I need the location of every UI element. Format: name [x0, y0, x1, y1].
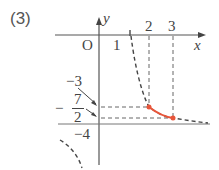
highlight-segment: [149, 107, 173, 118]
curve-left-branch: [60, 140, 82, 168]
y-tick-neg7-2-denominator: 2: [74, 110, 82, 125]
x-tick-3: 3: [168, 19, 176, 34]
y-axis-arrow-icon: [96, 17, 102, 25]
origin-label: O: [82, 38, 93, 53]
y-tick-neg7-2-sign: −: [55, 101, 63, 116]
point-3-neg7-2: [171, 116, 176, 121]
x-axis-label: x: [194, 38, 201, 53]
x-tick-2: 2: [145, 19, 153, 34]
x-tick-1: 1: [113, 38, 121, 53]
y-tick-neg7-2-numerator: 7: [74, 92, 82, 107]
point-2-neg3: [147, 105, 152, 110]
y-axis-label: y: [103, 11, 110, 26]
y-tick-neg3: −3: [66, 74, 82, 89]
y-tick-neg4: −4: [74, 127, 90, 142]
